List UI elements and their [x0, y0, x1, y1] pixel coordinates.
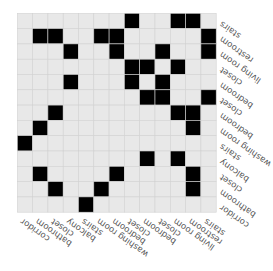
matrix-cell-filled — [109, 166, 124, 181]
matrix-cell-empty — [94, 90, 109, 105]
matrix-cell-empty — [33, 151, 48, 166]
matrix-cell-empty — [124, 166, 139, 181]
matrix-cell-empty — [140, 75, 155, 90]
matrix-cell-empty — [17, 166, 32, 181]
matrix-cell-filled — [109, 44, 124, 59]
matrix-cell-empty — [201, 166, 216, 181]
matrix-cell-filled — [140, 151, 155, 166]
matrix-cell-empty — [33, 75, 48, 90]
matrix-cell-empty — [201, 75, 216, 90]
matrix-cell-empty — [170, 90, 185, 105]
matrix-cell-filled — [201, 90, 216, 105]
matrix-cell-filled — [155, 75, 170, 90]
matrix-cell-empty — [140, 197, 155, 212]
matrix-cell-empty — [109, 13, 124, 28]
matrix-cell-empty — [48, 59, 63, 74]
matrix-cell-empty — [17, 120, 32, 135]
matrix-cell-empty — [48, 75, 63, 90]
matrix-cell-filled — [63, 44, 78, 59]
matrix-cell-filled — [48, 105, 63, 120]
matrix-cell-filled — [170, 105, 185, 120]
matrix-cell-empty — [94, 197, 109, 212]
matrix-cell-filled — [140, 59, 155, 74]
matrix-cell-empty — [94, 75, 109, 90]
matrix-cell-empty — [63, 120, 78, 135]
matrix-cell-empty — [17, 151, 32, 166]
matrix-cell-empty — [170, 29, 185, 44]
matrix-cell-empty — [124, 90, 139, 105]
matrix-cell-empty — [109, 90, 124, 105]
matrix-cell-empty — [79, 151, 94, 166]
matrix-cell-empty — [201, 197, 216, 212]
matrix-cell-empty — [48, 120, 63, 135]
matrix-cell-filled — [155, 44, 170, 59]
matrix-cell-filled — [17, 136, 32, 151]
matrix-cell-empty — [17, 182, 32, 197]
matrix-cell-empty — [155, 166, 170, 181]
matrix-cell-filled — [186, 105, 201, 120]
matrix-cell-empty — [140, 182, 155, 197]
matrix-cell-empty — [48, 136, 63, 151]
matrix-cell-filled — [186, 120, 201, 135]
matrix-cell-empty — [48, 13, 63, 28]
matrix-cell-empty — [155, 182, 170, 197]
matrix-cell-empty — [124, 29, 139, 44]
matrix-cell-empty — [124, 182, 139, 197]
matrix-cell-empty — [63, 197, 78, 212]
matrix-cell-empty — [63, 29, 78, 44]
matrix-cell-empty — [109, 59, 124, 74]
matrix-cell-empty — [109, 136, 124, 151]
matrix-cell-filled — [170, 59, 185, 74]
matrix-cell-empty — [79, 166, 94, 181]
matrix-cell-empty — [48, 151, 63, 166]
matrix-cell-empty — [155, 59, 170, 74]
matrix-cell-empty — [17, 105, 32, 120]
matrix-cell-empty — [33, 197, 48, 212]
matrix-cell-empty — [201, 151, 216, 166]
matrix-cell-empty — [94, 151, 109, 166]
matrix-cell-empty — [33, 90, 48, 105]
matrix-cell-empty — [109, 75, 124, 90]
matrix-cell-empty — [109, 120, 124, 135]
matrix-cell-empty — [17, 90, 32, 105]
matrix-cell-empty — [124, 120, 139, 135]
matrix-cell-empty — [201, 105, 216, 120]
matrix-cell-empty — [170, 120, 185, 135]
matrix-cell-filled — [186, 13, 201, 28]
matrix-cell-empty — [17, 75, 32, 90]
matrix-cell-filled — [155, 90, 170, 105]
matrix-cell-filled — [48, 29, 63, 44]
matrix-cell-empty — [124, 136, 139, 151]
matrix-cell-filled — [124, 75, 139, 90]
matrix-cell-empty — [140, 166, 155, 181]
matrix-cell-empty — [33, 105, 48, 120]
matrix-cell-empty — [94, 59, 109, 74]
matrix-cell-empty — [94, 136, 109, 151]
matrix-cell-empty — [186, 151, 201, 166]
matrix-cells — [17, 13, 216, 212]
matrix-cell-empty — [33, 182, 48, 197]
matrix-cell-empty — [140, 29, 155, 44]
matrix-cell-empty — [94, 44, 109, 59]
matrix-cell-empty — [63, 13, 78, 28]
matrix-cell-empty — [201, 182, 216, 197]
matrix-cell-filled — [63, 75, 78, 90]
matrix-cell-empty — [94, 13, 109, 28]
matrix-cell-empty — [79, 44, 94, 59]
matrix-cell-empty — [109, 151, 124, 166]
matrix-cell-empty — [63, 90, 78, 105]
matrix-cell-empty — [17, 29, 32, 44]
matrix-cell-filled — [79, 197, 94, 212]
matrix-cell-empty — [33, 44, 48, 59]
matrix-cell-empty — [155, 197, 170, 212]
matrix-cell-empty — [79, 136, 94, 151]
matrix-cell-empty — [94, 120, 109, 135]
matrix-cell-empty — [170, 197, 185, 212]
matrix-cell-empty — [155, 29, 170, 44]
matrix-cell-filled — [33, 120, 48, 135]
matrix-cell-empty — [109, 197, 124, 212]
matrix-cell-empty — [17, 13, 32, 28]
matrix-cell-empty — [79, 182, 94, 197]
matrix-cell-empty — [48, 197, 63, 212]
row-labels: stairsrestroomliving roomclosetbedroomcl… — [217, 19, 273, 230]
